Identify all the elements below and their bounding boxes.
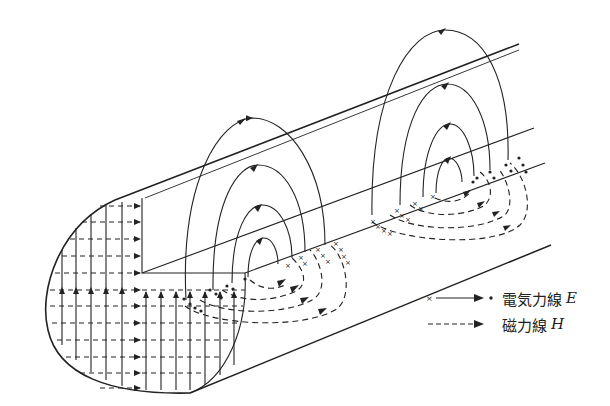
- cut-curve: [190, 273, 245, 393]
- svg-text:×: ×: [375, 223, 381, 231]
- charge-crosses: ××× ××× ×××× ×××× ××× ×××: [285, 193, 436, 270]
- tube-top-edge: [115, 44, 519, 200]
- cross-section-h-lines: [50, 206, 140, 388]
- svg-text:×: ×: [418, 205, 424, 213]
- dashed-arrow-icon: [426, 317, 496, 331]
- tube-end-cap: [46, 200, 190, 393]
- cross-section-v-lines: [62, 202, 234, 390]
- svg-text:×: ×: [387, 230, 393, 238]
- svg-text:×: ×: [302, 260, 308, 268]
- solid-arrow-icon: ×: [426, 291, 496, 305]
- legend-magnetic-label: 磁力線: [502, 314, 547, 335]
- legend-electric: × 電気力線 E: [426, 285, 577, 311]
- svg-text:×: ×: [405, 216, 411, 224]
- legend: × 電気力線 E 磁力線 H: [426, 285, 577, 337]
- svg-text:×: ×: [412, 200, 418, 208]
- svg-text:×: ×: [325, 258, 331, 266]
- e-field-loops-2: [372, 30, 508, 215]
- cut-vertical-edge: [142, 198, 245, 273]
- svg-text:×: ×: [426, 294, 433, 303]
- svg-text:×: ×: [345, 259, 351, 267]
- svg-text:×: ×: [430, 193, 436, 201]
- svg-text:×: ×: [285, 262, 291, 270]
- svg-text:×: ×: [399, 212, 405, 220]
- tube-top-inner-edge: [145, 50, 519, 198]
- legend-magnetic: 磁力線 H: [426, 311, 577, 337]
- legend-electric-label: 電気力線: [502, 288, 562, 309]
- legend-magnetic-symbol: H: [551, 315, 564, 333]
- svg-text:×: ×: [381, 227, 387, 235]
- waveguide-diagram: ××× ××× ×××× ×××× ××× ×××: [0, 0, 610, 406]
- cross-section-h-lines-right: [142, 290, 245, 373]
- legend-electric-symbol: E: [566, 289, 577, 307]
